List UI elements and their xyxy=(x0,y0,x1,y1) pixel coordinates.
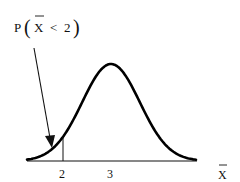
x-axis-label: X xyxy=(218,165,227,182)
annotation-relation: < xyxy=(50,20,57,35)
annotation-prefix: P xyxy=(14,20,21,35)
x-tick-label-3: 3 xyxy=(107,167,113,181)
x-axis-label-text: X xyxy=(218,168,227,182)
x-tick-label-2: 2 xyxy=(59,167,65,181)
annotation-open-paren: ( xyxy=(24,16,31,39)
annotation-arrow-shaft xyxy=(34,48,50,138)
normal-distribution-chart: P ( X < 2 ) 2 3 X xyxy=(0,0,240,182)
annotation-variable: X xyxy=(34,20,44,35)
annotation-value: 2 xyxy=(64,20,71,35)
annotation-close-paren: ) xyxy=(73,16,80,39)
probability-annotation: P ( X < 2 ) xyxy=(14,16,80,39)
